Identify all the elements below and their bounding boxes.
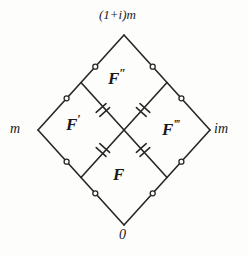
vertex-label-top: (1+i)m <box>99 8 136 21</box>
region-base: F <box>66 115 77 134</box>
ring-mark <box>64 159 69 164</box>
hatch-mark <box>96 144 109 157</box>
region-primes: ′ <box>77 112 80 126</box>
diamond-figure <box>0 0 248 257</box>
hatch-mark <box>96 104 109 117</box>
region-label-left: F′ <box>66 113 80 133</box>
vertex-label-bottom: 0 <box>119 228 126 242</box>
ring-mark <box>150 191 155 196</box>
region-base: F <box>162 120 173 139</box>
ring-mark <box>64 96 69 101</box>
ring-mark <box>179 96 184 101</box>
diagram-canvas: (1+i)m m im 0 F″ F′ F‴ F <box>0 0 248 257</box>
region-label-top: F″ <box>108 67 125 87</box>
vertex-label-left: m <box>10 122 20 136</box>
region-primes: ″ <box>119 66 125 80</box>
region-label-right: F‴ <box>162 118 180 138</box>
region-base: F <box>108 69 119 88</box>
vertex-label-right: im <box>214 122 228 136</box>
region-primes: ‴ <box>173 117 179 131</box>
region-base: F <box>113 165 124 184</box>
ring-mark <box>179 159 184 164</box>
ring-mark <box>93 191 98 196</box>
ring-mark <box>150 64 155 69</box>
ring-mark <box>93 64 98 69</box>
region-label-bottom: F <box>113 163 124 183</box>
